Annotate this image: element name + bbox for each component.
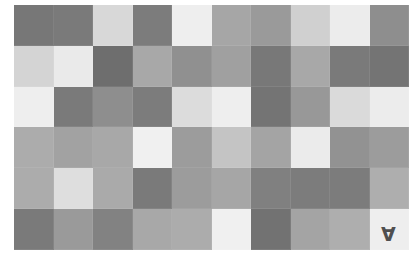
puzzle-tile[interactable] [133,87,173,128]
puzzle-tile[interactable] [172,46,212,87]
puzzle-tile[interactable] [133,127,173,168]
puzzle-tile[interactable] [212,5,252,46]
puzzle-tile[interactable] [370,87,410,128]
puzzle-tile[interactable] [370,5,410,46]
puzzle-tile[interactable] [251,168,291,209]
puzzle-tile[interactable] [212,46,252,87]
puzzle-tile[interactable] [212,168,252,209]
puzzle-tile[interactable] [133,209,173,250]
puzzle-tile[interactable] [54,87,94,128]
puzzle-tile[interactable] [133,168,173,209]
puzzle-tile[interactable] [172,5,212,46]
puzzle-tile[interactable] [291,168,331,209]
puzzle-tile[interactable] [251,87,291,128]
puzzle-tile[interactable] [14,209,54,250]
puzzle-tile[interactable] [172,87,212,128]
puzzle-tile[interactable] [291,5,331,46]
puzzle-tile[interactable] [251,127,291,168]
puzzle-tile[interactable] [291,87,331,128]
puzzle-tile[interactable] [93,46,133,87]
puzzle-tile[interactable] [291,127,331,168]
puzzle-tile[interactable] [370,168,410,209]
puzzle-tile[interactable] [330,168,370,209]
puzzle-tile[interactable] [172,127,212,168]
puzzle-tile[interactable] [370,46,410,87]
puzzle-tile[interactable] [330,127,370,168]
puzzle-tile[interactable] [133,5,173,46]
puzzle-tile[interactable] [14,5,54,46]
puzzle-tile[interactable] [93,168,133,209]
puzzle-tile[interactable] [251,46,291,87]
puzzle-tile[interactable] [54,46,94,87]
puzzle-tile[interactable] [14,87,54,128]
puzzle-tile[interactable] [330,46,370,87]
puzzle-tile[interactable] [54,168,94,209]
puzzle-tile[interactable] [93,209,133,250]
puzzle-tile[interactable] [212,87,252,128]
puzzle-tile[interactable] [172,209,212,250]
puzzle-tile[interactable] [251,5,291,46]
puzzle-tile[interactable] [330,87,370,128]
puzzle-tile[interactable] [291,46,331,87]
puzzle-tile[interactable] [14,127,54,168]
puzzle-tile[interactable] [212,127,252,168]
puzzle-tile[interactable] [212,209,252,250]
puzzle-tile[interactable]: A [370,209,410,250]
puzzle-tile[interactable] [14,168,54,209]
puzzle-tile[interactable] [54,209,94,250]
puzzle-tile[interactable] [93,127,133,168]
tile-letter-marker: A [381,224,396,243]
puzzle-tile[interactable] [330,5,370,46]
puzzle-tile[interactable] [93,87,133,128]
puzzle-tile[interactable] [14,46,54,87]
puzzle-tile[interactable] [54,127,94,168]
puzzle-tile[interactable] [291,209,331,250]
puzzle-tile[interactable] [133,46,173,87]
tile-puzzle-board: A [14,5,409,250]
puzzle-tile[interactable] [330,209,370,250]
puzzle-tile[interactable] [172,168,212,209]
puzzle-tile[interactable] [251,209,291,250]
puzzle-tile[interactable] [370,127,410,168]
puzzle-tile[interactable] [93,5,133,46]
puzzle-tile[interactable] [54,5,94,46]
